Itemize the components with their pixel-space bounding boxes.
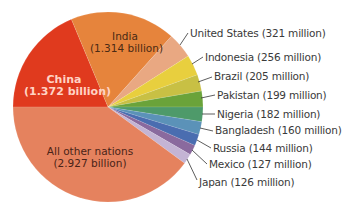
label-mexico: Mexico (127 million) <box>209 158 312 170</box>
india-name: India <box>90 30 160 42</box>
label-russia: Russia (144 million) <box>213 142 313 154</box>
other-value: (2.927 billion) <box>35 157 145 169</box>
label-all-other-nations: All other nations (2.927 billion) <box>35 145 145 169</box>
label-pakistan: Pakistan (199 million) <box>217 89 326 101</box>
label-bangladesh: Bangladesh (160 million) <box>215 124 342 136</box>
label-nigeria: Nigeria (182 million) <box>217 108 320 120</box>
label-japan: Japan (126 million) <box>199 176 294 188</box>
china-value: (1.372 billion) <box>24 86 104 98</box>
label-china: China (1.372 billion) <box>24 74 104 98</box>
label-brazil: Brazil (205 million) <box>214 70 309 82</box>
label-indonesia: Indonesia (256 million) <box>205 51 321 63</box>
label-india: India (1.314 billion) <box>90 30 160 54</box>
india-value: (1.314 billion) <box>90 42 160 54</box>
other-name: All other nations <box>35 145 145 157</box>
label-united-states: United States (321 million) <box>190 27 326 39</box>
